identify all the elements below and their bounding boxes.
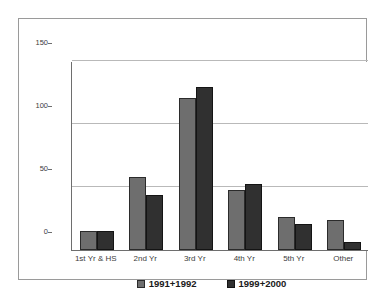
y-tick-mark-150 <box>48 43 52 44</box>
x-axis-label-4th Yr: 4th Yr <box>220 255 270 263</box>
y-tick-label-0: 0 <box>16 228 48 236</box>
y-tick-label-150: 150 <box>16 39 48 47</box>
chart-outer-frame: 1st Yr & HS2nd Yr3rd Yr4th Yr5th YrOther… <box>18 18 367 280</box>
bar-1991+1992-Other <box>327 220 344 250</box>
legend-swatch-icon-1991+1992 <box>137 280 145 288</box>
y-tick-label-50: 50 <box>16 165 48 173</box>
x-axis-label-2nd Yr: 2nd Yr <box>121 255 171 263</box>
y-tick-mark-50 <box>48 169 52 170</box>
chart-legend: 1991+19921999+2000 <box>37 279 386 289</box>
x-axis-label-Other: Other <box>319 255 369 263</box>
legend-entry-1991+1992: 1991+1992 <box>137 279 197 289</box>
x-axis-label-1st Yr & HS: 1st Yr & HS <box>71 255 121 263</box>
x-axis-label-3rd Yr: 3rd Yr <box>170 255 220 263</box>
chart-figure: 1st Yr & HS2nd Yr3rd Yr4th Yr5th YrOther… <box>0 0 387 298</box>
legend-label-1991+1992: 1991+1992 <box>149 279 197 289</box>
bar-1991+1992-3rd Yr <box>179 98 196 250</box>
x-axis-label-5th Yr: 5th Yr <box>269 255 319 263</box>
bar-1999+2000-4th Yr <box>245 184 262 250</box>
bar-1999+2000-5th Yr <box>295 224 312 250</box>
y-tick-mark-0 <box>48 232 52 233</box>
gridline-150 <box>72 60 368 61</box>
x-axis-labels: 1st Yr & HS2nd Yr3rd Yr4th Yr5th YrOther <box>71 255 368 269</box>
y-tick-label-100: 100 <box>16 102 48 110</box>
bar-1991+1992-2nd Yr <box>129 177 146 250</box>
y-tick-mark-100 <box>48 106 52 107</box>
gridline-50 <box>72 186 368 187</box>
bar-1991+1992-4th Yr <box>228 190 245 250</box>
bar-1999+2000-2nd Yr <box>146 195 163 250</box>
bar-1991+1992-1st Yr & HS <box>80 231 97 250</box>
bar-1999+2000-3rd Yr <box>196 87 213 250</box>
bar-1999+2000-Other <box>344 242 361 250</box>
bar-1991+1992-5th Yr <box>278 217 295 250</box>
bar-1999+2000-1st Yr & HS <box>97 231 114 250</box>
legend-swatch-icon-1999+2000 <box>227 280 235 288</box>
legend-entry-1999+2000: 1999+2000 <box>227 279 287 289</box>
plot-area <box>71 62 368 251</box>
legend-label-1999+2000: 1999+2000 <box>239 279 287 289</box>
gridline-100 <box>72 123 368 124</box>
